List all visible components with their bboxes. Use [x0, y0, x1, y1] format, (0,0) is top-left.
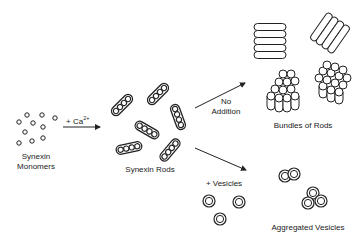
calcium-label-charge: 2+ [83, 115, 89, 121]
calcium-label-text: + Ca [66, 117, 83, 126]
monomers-label-line1: Synexin [14, 152, 58, 162]
monomers-label-line2: Monomers [14, 162, 58, 172]
monomer-cluster [17, 113, 57, 145]
synexin-aggregation-diagram: Synexin Monomers + Ca2+ Synexin Rods No … [0, 0, 362, 242]
no-addition-line1: No [208, 97, 244, 107]
calcium-label: + Ca2+ [66, 113, 89, 127]
vesicles-label: + Vesicles [202, 179, 246, 189]
vesicles-arrow [195, 148, 246, 170]
aggregated-label: Aggregated Vesicles [266, 223, 350, 233]
no-addition-line2: Addition [208, 107, 244, 117]
rod-bundles [254, 12, 351, 112]
aggregated-vesicle-clusters [279, 168, 327, 209]
rods-label: Synexin Rods [120, 165, 180, 175]
free-vesicles [203, 195, 245, 225]
no-addition-label: No Addition [208, 97, 244, 117]
synexin-rods [110, 82, 187, 163]
bundles-label: Bundles of Rods [268, 121, 338, 131]
monomers-label: Synexin Monomers [14, 152, 58, 172]
